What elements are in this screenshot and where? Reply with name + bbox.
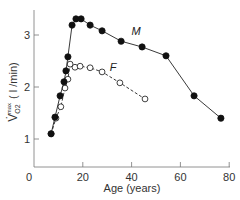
data-point bbox=[191, 93, 197, 99]
y-axis-title: V̇O2max( l /min) bbox=[6, 62, 21, 121]
series-labels: MF bbox=[110, 25, 142, 73]
y-tick-label: 1 bbox=[24, 133, 30, 145]
x-ticks: 020406080 bbox=[26, 162, 235, 183]
x-axis-title: Age (years) bbox=[104, 182, 161, 194]
data-point bbox=[218, 115, 224, 121]
svg-text:V̇O2max( l /min): V̇O2max( l /min) bbox=[6, 62, 21, 121]
data-point bbox=[87, 22, 93, 28]
data-point bbox=[117, 80, 123, 86]
series-label-f: F bbox=[110, 61, 118, 73]
data-point bbox=[77, 63, 83, 69]
x-tick-label: 60 bbox=[174, 171, 186, 183]
data-point bbox=[139, 44, 145, 50]
data-point bbox=[52, 114, 58, 120]
data-point bbox=[65, 54, 71, 60]
y-label-sup: max bbox=[6, 103, 12, 114]
data-point bbox=[57, 93, 63, 99]
y-label-unit: ( l /min) bbox=[7, 62, 19, 99]
data-point bbox=[163, 53, 169, 59]
data-point bbox=[118, 38, 124, 44]
data-point bbox=[48, 131, 54, 137]
data-point bbox=[61, 79, 67, 85]
data-point bbox=[142, 96, 148, 102]
x-tick-label: 20 bbox=[77, 171, 89, 183]
data-point bbox=[87, 65, 93, 71]
y-ticks: 123 bbox=[24, 29, 39, 145]
vo2max-age-chart: 020406080 123 Age (years) V̇O2max( l /mi… bbox=[0, 0, 240, 200]
data-point bbox=[58, 104, 64, 110]
data-point bbox=[63, 68, 69, 74]
series-label-m: M bbox=[132, 25, 142, 37]
data-point bbox=[99, 69, 105, 75]
data-point bbox=[69, 22, 75, 28]
x-tick-label: 80 bbox=[223, 171, 235, 183]
y-tick-label: 2 bbox=[24, 81, 30, 93]
y-tick-label: 3 bbox=[24, 29, 30, 41]
data-point bbox=[78, 16, 84, 22]
data-point bbox=[99, 28, 105, 34]
y-label-sub: O2 bbox=[14, 104, 21, 113]
x-tick-label: 0 bbox=[26, 171, 32, 183]
